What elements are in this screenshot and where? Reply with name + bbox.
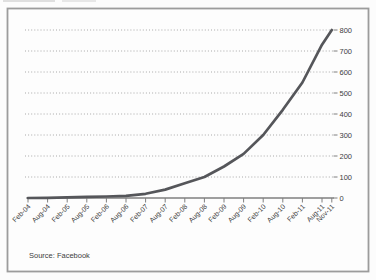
figure-border: [8, 9, 369, 272]
y-tick-label: 800: [340, 26, 353, 35]
y-tick-label: 700: [340, 47, 353, 56]
y-tick-label: 100: [340, 173, 353, 182]
cropped-text-remnant: [3, 0, 96, 2]
cropped-text-remnant: [62, 0, 96, 2]
y-tick-label: 300: [340, 131, 353, 140]
source-note: Source: Facebook: [29, 251, 90, 260]
y-tick-label: 600: [340, 68, 353, 77]
cropped-text-remnant: [3, 0, 55, 2]
chart-card: 0100200300400500600700800Feb-04Aug-04Feb…: [0, 0, 376, 280]
line-chart: 0100200300400500600700800Feb-04Aug-04Feb…: [0, 0, 376, 280]
y-tick-label: 500: [340, 89, 353, 98]
y-tick-label: 200: [340, 152, 353, 161]
y-tick-label: 0: [340, 194, 344, 203]
y-tick-label: 400: [340, 110, 353, 119]
